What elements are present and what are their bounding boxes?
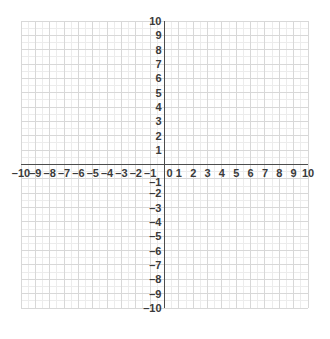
x-tick-label-9: 9 <box>291 168 297 179</box>
x-tick-label-8: 8 <box>276 168 282 179</box>
y-tick-label-6: 6 <box>0 73 162 84</box>
y-tick-label-5: 5 <box>0 87 162 98</box>
y-tick-label-8: 8 <box>0 44 162 55</box>
y-tick-label-9: 9 <box>0 30 162 41</box>
y-tick-label-neg1: –1 <box>0 176 162 187</box>
x-tick-label-2: 2 <box>190 168 196 179</box>
y-tick-label-neg7: –7 <box>0 259 162 270</box>
y-tick-label-3: 3 <box>0 116 162 127</box>
y-tick-label-neg4: –4 <box>0 216 162 227</box>
y-tick-label-4: 4 <box>0 102 162 113</box>
y-tick-label-neg3: –3 <box>0 202 162 213</box>
y-tick-label-7: 7 <box>0 59 162 70</box>
y-tick-label-neg10: –10 <box>0 303 162 314</box>
coordinate-plane: –10–9–8–7–6–5–4–3–2–10123456789101098765… <box>0 0 330 339</box>
x-tick-label-7: 7 <box>262 168 268 179</box>
y-tick-label-1: 1 <box>0 145 162 156</box>
x-tick-label-5: 5 <box>233 168 239 179</box>
y-tick-label-neg9: –9 <box>0 288 162 299</box>
x-tick-label-4: 4 <box>219 168 225 179</box>
x-tick-label-0: 0 <box>167 168 173 179</box>
x-tick-label-6: 6 <box>248 168 254 179</box>
axis-tick-labels: –10–9–8–7–6–5–4–3–2–10123456789101098765… <box>0 0 330 339</box>
x-tick-label-1: 1 <box>176 168 182 179</box>
y-tick-label-neg8: –8 <box>0 274 162 285</box>
y-tick-label-2: 2 <box>0 130 162 141</box>
y-tick-label-neg5: –5 <box>0 231 162 242</box>
x-tick-label-3: 3 <box>204 168 210 179</box>
y-tick-label-neg6: –6 <box>0 245 162 256</box>
y-tick-label-10: 10 <box>0 16 162 27</box>
y-tick-label-neg2: –2 <box>0 188 162 199</box>
x-tick-label-10: 10 <box>302 168 314 179</box>
